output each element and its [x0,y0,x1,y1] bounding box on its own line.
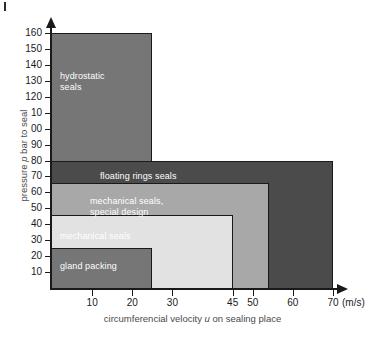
y-axis-title: pressure p bar to seal [18,86,29,226]
x-tick-mark [293,290,294,296]
x-axis-unit: (m/s) [342,297,365,308]
y-tick-mark [45,49,52,50]
x-axis-line [50,288,340,290]
x-tick-mark [253,290,254,296]
y-tick-label: 50 [31,203,42,213]
x-tick-mark [172,290,173,296]
x-axis-title-suffix: on sealing place [210,313,281,324]
y-tick-label: 130 [25,76,42,86]
seal-selection-chart: hydrostatic sealsfloating rings sealsmec… [0,0,385,337]
y-tick-mark [45,33,52,34]
y-tick-label: 60 [31,187,42,197]
y-tick-label: 140 [25,60,42,70]
region-label-hydrostatic-seals: hydrostatic seals [60,71,105,93]
x-tick-label: 20 [117,297,147,308]
y-tick-mark [45,161,52,162]
x-tick-mark [92,290,93,296]
y-tick-mark [45,192,52,193]
y-tick-label: 30 [31,235,42,245]
y-tick-label: 40 [31,219,42,229]
y-tick-label: 70 [31,171,42,181]
y-tick-mark [45,81,52,82]
y-axis-title-suffix: bar to seal [18,110,29,157]
y-tick-mark [45,145,52,146]
y-tick-label: 10 [31,267,42,277]
y-tick-mark [45,208,52,209]
x-axis-arrow-icon [337,284,348,294]
x-tick-label: 30 [157,297,187,308]
y-tick-label: 00 [31,124,42,134]
region-label-mechanical-seals: mechanical seals [60,231,131,242]
x-axis-title: circumferencial velocity u on sealing pl… [52,313,333,324]
region-label-gland-packing: gland packing [60,261,117,272]
y-tick-mark [45,240,52,241]
y-tick-label: 90 [31,140,42,150]
y-tick-mark [45,129,52,130]
y-axis-title-prefix: pressure [18,162,29,202]
x-tick-mark [233,290,234,296]
y-axis-arrow-icon [46,17,56,28]
region-label-mechanical-seals-special-design: mechanical seals, special design [90,196,163,218]
x-tick-label: 50 [238,297,268,308]
y-tick-label: 10 [31,108,42,118]
y-tick-mark [45,224,52,225]
x-tick-mark [132,290,133,296]
region-label-floating-rings-seals: floating rings seals [100,171,177,182]
y-tick-mark [45,176,52,177]
y-tick-label: 20 [31,251,42,261]
plot-area: hydrostatic sealsfloating rings sealsmec… [52,33,333,288]
y-axis-title-symbol: p [18,157,29,162]
x-axis-title-prefix: circumferencial velocity [104,313,205,324]
y-tick-mark [45,272,52,273]
x-tick-label: 60 [278,297,308,308]
y-tick-mark [45,65,52,66]
y-tick-mark [45,113,52,114]
page-artifact-mark [4,2,6,11]
x-tick-mark [333,290,334,296]
y-tick-label: 80 [31,156,42,166]
y-tick-label: 160 [25,28,42,38]
y-tick-mark [45,256,52,257]
y-tick-mark [45,97,52,98]
x-tick-label: 10 [77,297,107,308]
y-tick-label: 150 [25,44,42,54]
